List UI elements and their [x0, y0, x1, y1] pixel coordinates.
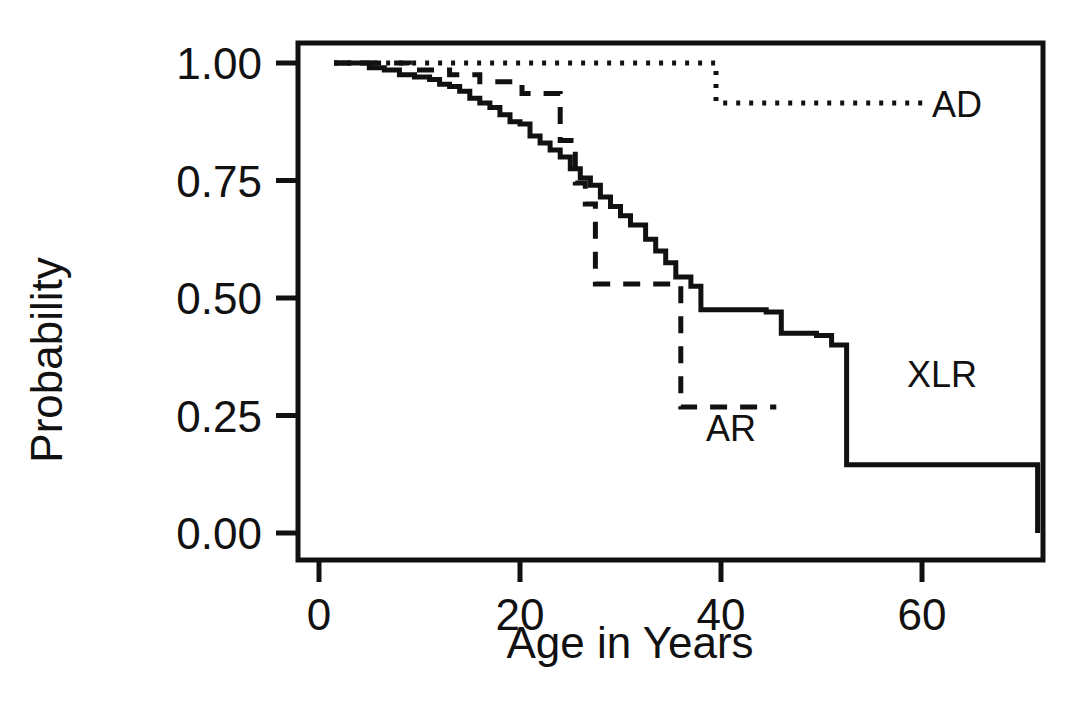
series-curve-XLR [334, 63, 1038, 533]
y-axis-title: Probability [22, 257, 71, 462]
series-annotation-AD: AD [932, 84, 982, 125]
series-annotation-AR: AR [706, 408, 756, 449]
y-axis-tick-labels: 0.000.250.500.751.00 [176, 39, 262, 558]
x-axis-title: Age in Years [506, 618, 753, 667]
y-tick-label-1.00: 1.00 [176, 39, 262, 88]
x-axis-ticks [319, 560, 922, 582]
kaplan-meier-chart: 0.000.250.500.751.00 0204060 Probability… [0, 0, 1081, 702]
series-curve-AR [334, 63, 776, 407]
x-tick-label-60: 60 [898, 590, 947, 639]
y-tick-label-0.25: 0.25 [176, 392, 262, 441]
series-annotations: ADARXLR [706, 84, 982, 449]
y-tick-label-0.50: 0.50 [176, 274, 262, 323]
series-annotation-XLR: XLR [907, 354, 977, 395]
series-curves [334, 63, 1038, 533]
y-tick-label-0.75: 0.75 [176, 157, 262, 206]
figure-root: 0.000.250.500.751.00 0204060 Probability… [0, 0, 1081, 702]
y-axis-ticks [276, 63, 298, 533]
y-tick-label-0.00: 0.00 [176, 509, 262, 558]
x-tick-label-0: 0 [307, 590, 331, 639]
